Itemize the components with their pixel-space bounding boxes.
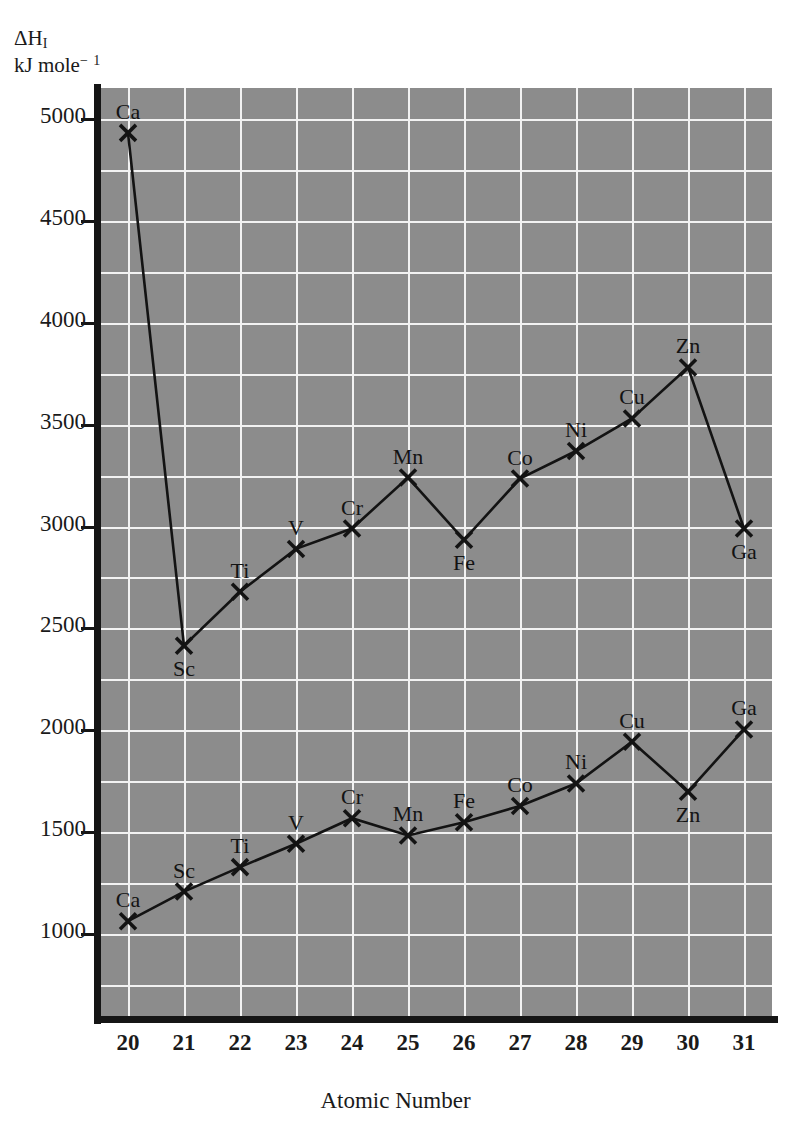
- data-point: [288, 541, 304, 557]
- data-point: [400, 470, 416, 486]
- data-point: [512, 798, 528, 814]
- data-point-label: Ni: [565, 417, 587, 442]
- data-point-label: Sc: [173, 858, 195, 883]
- x-axis-title: Atomic Number: [0, 1088, 791, 1114]
- data-point-label: Ga: [731, 539, 757, 564]
- data-point-label: Cu: [619, 384, 645, 409]
- data-point-label: Ti: [231, 833, 250, 858]
- series-line: [128, 729, 744, 921]
- data-point: [456, 532, 472, 548]
- data-point-label: Ni: [565, 749, 587, 774]
- data-point: [736, 521, 752, 537]
- data-point: [232, 859, 248, 875]
- data-point-label: Mn: [393, 801, 424, 826]
- data-point-label: Ca: [116, 887, 141, 912]
- data-point: [736, 721, 752, 737]
- data-point: [176, 884, 192, 900]
- data-point: [680, 359, 696, 375]
- data-point-label: Co: [507, 445, 533, 470]
- data-point: [512, 471, 528, 487]
- data-point: [232, 584, 248, 600]
- data-point: [288, 836, 304, 852]
- data-point: [624, 410, 640, 426]
- data-point-label: Cr: [341, 495, 364, 520]
- data-point: [624, 734, 640, 750]
- data-point-label: V: [288, 515, 304, 540]
- data-point-label: Ti: [231, 558, 250, 583]
- data-point-label: Sc: [173, 656, 195, 681]
- data-point: [568, 443, 584, 459]
- data-point-label: Zn: [676, 802, 700, 827]
- data-point-label: Fe: [453, 788, 475, 813]
- series-line: [128, 133, 744, 646]
- data-point-label: Ca: [116, 99, 141, 124]
- data-point-label: Mn: [393, 444, 424, 469]
- data-point-label: Cr: [341, 784, 364, 809]
- data-point: [680, 784, 696, 800]
- data-point-label: Ga: [731, 695, 757, 720]
- data-point-label: Cu: [619, 708, 645, 733]
- data-point: [344, 521, 360, 537]
- series-layer: CaScTiVCrMnFeCoNiCuZnGaCaScTiVCrMnFeCoNi…: [0, 0, 791, 1136]
- ionisation-enthalpy-chart: ΔHI kJ mole− 1 1000150020002500300035004…: [0, 0, 791, 1136]
- data-point-label: V: [288, 810, 304, 835]
- data-point: [344, 810, 360, 826]
- data-point: [120, 913, 136, 929]
- data-point-label: Fe: [453, 550, 475, 575]
- data-point: [568, 775, 584, 791]
- data-point-label: Zn: [676, 333, 700, 358]
- data-point-label: Co: [507, 772, 533, 797]
